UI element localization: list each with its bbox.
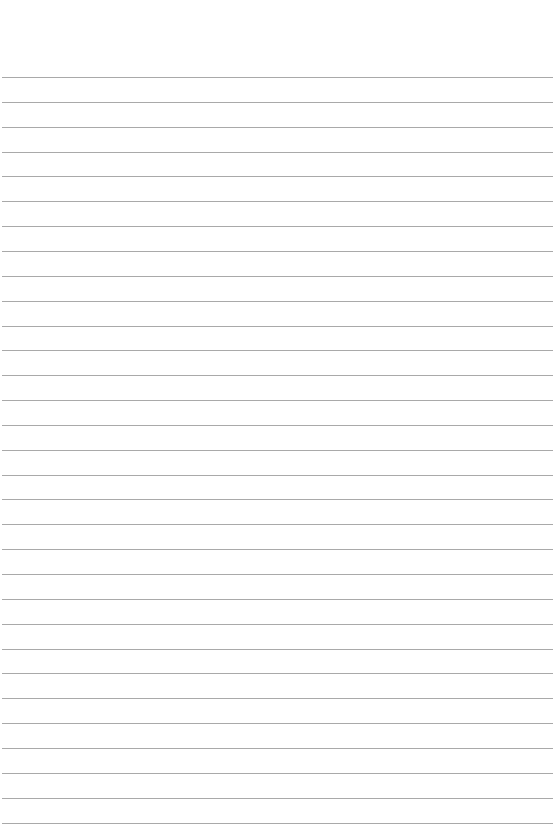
ruled-line bbox=[2, 77, 553, 78]
ruled-line bbox=[2, 599, 553, 600]
ruled-line bbox=[2, 673, 553, 674]
ruled-line bbox=[2, 375, 553, 376]
ruled-line bbox=[2, 152, 553, 153]
ruled-line bbox=[2, 524, 553, 525]
ruled-line bbox=[2, 201, 553, 202]
ruled-line bbox=[2, 276, 553, 277]
ruled-line bbox=[2, 624, 553, 625]
ruled-line bbox=[2, 649, 553, 650]
ruled-line bbox=[2, 823, 553, 824]
ruled-line bbox=[2, 251, 553, 252]
ruled-line bbox=[2, 574, 553, 575]
ruled-line bbox=[2, 798, 553, 799]
ruled-line bbox=[2, 773, 553, 774]
ruled-line bbox=[2, 127, 553, 128]
ruled-line bbox=[2, 425, 553, 426]
ruled-line bbox=[2, 350, 553, 351]
ruled-line bbox=[2, 723, 553, 724]
ruled-line bbox=[2, 301, 553, 302]
ruled-line bbox=[2, 748, 553, 749]
ruled-line bbox=[2, 176, 553, 177]
ruled-line bbox=[2, 549, 553, 550]
ruled-line bbox=[2, 475, 553, 476]
lined-paper-page bbox=[0, 0, 555, 834]
ruled-line bbox=[2, 450, 553, 451]
ruled-line bbox=[2, 499, 553, 500]
ruled-line bbox=[2, 326, 553, 327]
ruled-line bbox=[2, 400, 553, 401]
ruled-line bbox=[2, 698, 553, 699]
ruled-line bbox=[2, 102, 553, 103]
ruled-line bbox=[2, 226, 553, 227]
